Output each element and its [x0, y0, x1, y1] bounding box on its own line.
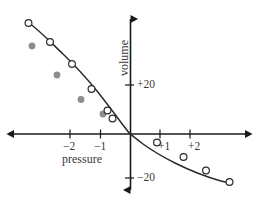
y-tick-label-pos20: +20: [137, 79, 155, 91]
plot-canvas: [0, 0, 260, 202]
x-axis-label: pressure: [62, 153, 102, 165]
filled-data-points: [29, 43, 107, 118]
x-tick-label-pos2: +2: [188, 141, 200, 153]
x-tick-label-neg2: −2: [63, 141, 75, 153]
x-tick-label-neg1: −1: [94, 141, 106, 153]
scatter-plot-figure: −2 −1 +1 +2 +20 −20 pressure volume: [0, 0, 260, 202]
y-axis-label: volume: [118, 40, 130, 76]
y-tick-label-neg20: −20: [137, 172, 155, 184]
x-tick-label-pos1: +1: [158, 141, 170, 153]
y-axis-ticks: [125, 85, 134, 178]
